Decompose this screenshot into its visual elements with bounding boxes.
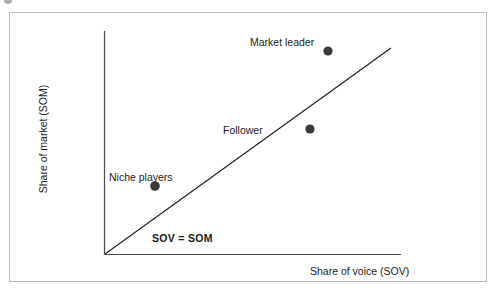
parity-line	[105, 48, 391, 254]
figure-frame: Market leader Follower Niche players SOV…	[9, 12, 487, 282]
data-label-niche-players: Niche players	[109, 172, 173, 183]
x-axis-label: Share of voice (SOV)	[310, 265, 409, 277]
bullet-icon	[4, 0, 12, 4]
data-label-market-leader: Market leader	[250, 37, 314, 48]
chart-canvas	[10, 13, 488, 283]
annotation-sov-equals-som: SOV = SOM	[152, 233, 213, 244]
figure-caption-strip	[0, 0, 497, 9]
data-point-follower[interactable]	[305, 124, 314, 133]
y-axis-label: Share of market (SOM)	[37, 59, 49, 219]
figure-caption	[4, 0, 18, 5]
data-point-market-leader[interactable]	[323, 46, 332, 55]
plot-area: Market leader Follower Niche players SOV…	[10, 13, 488, 283]
data-label-follower: Follower	[223, 125, 263, 136]
